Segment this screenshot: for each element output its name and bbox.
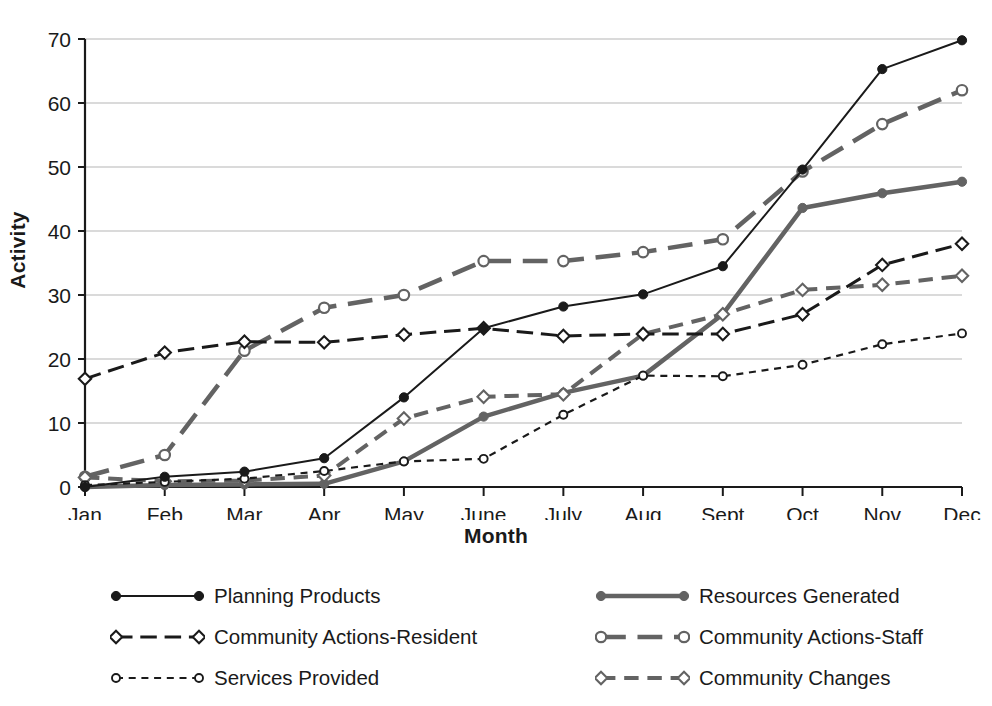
series-line [85, 40, 962, 487]
plot-area: 010203040506070JanFebMarAprMayJuneJulyAu… [0, 0, 992, 520]
legend-marker-start [596, 631, 606, 641]
data-point-Sept [717, 328, 729, 340]
data-point-Feb [159, 346, 171, 358]
data-point-Aug [638, 247, 648, 257]
legend-marker-end [679, 591, 688, 600]
y-tick-label-30: 30 [48, 284, 71, 307]
data-point-Jan [80, 482, 89, 491]
data-point-July [558, 256, 568, 266]
legend-item: Community Changes [595, 657, 992, 698]
data-point-Aug [638, 290, 647, 299]
legend-marker-start [111, 591, 120, 600]
x-axis-title-wrap: Month [0, 524, 992, 548]
data-point-June [479, 324, 488, 333]
legend-label: Community Actions-Staff [699, 625, 923, 649]
series-line [85, 276, 962, 481]
data-point-May [399, 290, 409, 300]
data-point-Jan [79, 373, 91, 385]
data-point-July [557, 330, 569, 342]
legend-item: Community Actions-Resident [110, 616, 540, 657]
data-point-Dec [957, 36, 966, 45]
data-point-June [478, 256, 488, 266]
data-point-Nov [878, 189, 887, 198]
data-point-Feb [160, 450, 170, 460]
data-point-May [400, 457, 408, 465]
legend-marker-end [193, 630, 205, 642]
y-tick-label-50: 50 [48, 156, 71, 179]
legend-column-right: Resources Generated Community Actions-St… [595, 575, 992, 698]
data-point-Mar [240, 467, 249, 476]
data-point-Aug [639, 372, 647, 380]
legend-label: Community Changes [699, 666, 890, 690]
legend-marker-start [596, 591, 605, 600]
y-tick-label-40: 40 [48, 220, 71, 243]
legend-swatch-community-actions-resident [110, 626, 205, 648]
legend-marker-end [194, 591, 203, 600]
series-line [85, 182, 962, 487]
x-tick-label-Mar: Mar [226, 503, 262, 520]
x-axis-title: Month [464, 524, 528, 547]
data-point-Dec [956, 270, 968, 282]
legend-item: Community Actions-Staff [595, 616, 992, 657]
data-point-May [399, 393, 408, 402]
legend-label: Planning Products [214, 584, 380, 608]
data-point-Nov [876, 279, 888, 291]
y-tick-label-20: 20 [48, 348, 71, 371]
legend-item: Services Provided [110, 657, 540, 698]
series-line [85, 333, 962, 485]
y-tick-label-10: 10 [48, 412, 71, 435]
gridlines [85, 39, 962, 423]
x-tick-label-Jan: Jan [68, 503, 102, 520]
line-chart: Activity 010203040506070JanFebMarAprMayJ… [0, 0, 992, 706]
data-point-June [480, 455, 488, 463]
data-point-Sept [718, 262, 727, 271]
data-point-Feb [160, 472, 169, 481]
data-point-June [477, 391, 489, 403]
legend-marker-end [195, 674, 203, 682]
data-point-Dec [957, 177, 966, 186]
x-tick-label-May: May [384, 503, 424, 520]
data-point-Apr [318, 336, 330, 348]
y-tick-label-70: 70 [48, 28, 71, 51]
x-tick-label-Feb: Feb [147, 503, 183, 520]
x-tick-label-Oct: Oct [786, 503, 819, 520]
legend-marker-end [678, 671, 690, 683]
y-axis-title: Activity [6, 211, 30, 288]
x-tick-label-July: July [545, 503, 583, 520]
legend-marker-start [110, 630, 122, 642]
legend-label: Community Actions-Resident [214, 625, 477, 649]
legend-swatch-resources-generated [595, 585, 690, 607]
legend-column-left: Planning Products Community Actions-Resi… [110, 575, 540, 698]
data-point-Sept [718, 234, 728, 244]
legend-marker-end [679, 631, 689, 641]
legend-item: Resources Generated [595, 575, 992, 616]
data-point-Oct [796, 284, 808, 296]
y-axis-ticks: 010203040506070 [48, 28, 85, 499]
legend-swatch-community-changes [595, 667, 690, 689]
data-point-May [398, 328, 410, 340]
series-community-changes [79, 270, 968, 488]
x-tick-label-Apr: Apr [308, 503, 341, 520]
legend-marker-start [595, 671, 607, 683]
series-resources-generated [80, 177, 966, 491]
legend-swatch-planning-products [110, 585, 205, 607]
legend-marker-start [112, 674, 120, 682]
data-point-Sept [719, 372, 727, 380]
data-point-Apr [319, 303, 329, 313]
data-point-Nov [878, 64, 887, 73]
data-point-June [479, 412, 488, 421]
chart-legend: Planning Products Community Actions-Resi… [0, 575, 992, 700]
x-tick-label-June: June [461, 503, 507, 520]
data-point-Nov [877, 119, 887, 129]
legend-label: Resources Generated [699, 584, 900, 608]
legend-swatch-community-actions-staff [595, 626, 690, 648]
legend-label: Services Provided [214, 666, 379, 690]
data-point-Nov [878, 340, 886, 348]
series-line [85, 90, 962, 477]
data-point-Apr [320, 467, 328, 475]
data-point-Dec [958, 329, 966, 337]
data-point-July [559, 411, 567, 419]
data-point-Apr [320, 454, 329, 463]
y-tick-label-0: 0 [59, 476, 71, 499]
series-services-provided [81, 329, 966, 489]
